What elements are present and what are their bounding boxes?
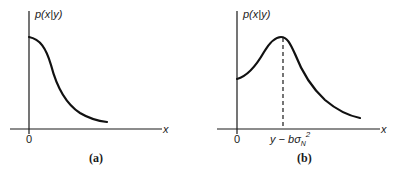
density-curve: [29, 37, 107, 122]
x-axis-label: x: [162, 123, 169, 135]
x-axis-label: x: [380, 123, 387, 135]
peak-label-sub: N: [301, 140, 307, 147]
density-curve: [237, 37, 360, 118]
peak-label-base: y − bσ: [269, 133, 301, 145]
figure: p(x|y) x 0 (a) p(x|y) x 0 y − bσN2 (b): [0, 0, 394, 172]
origin-label: 0: [234, 133, 240, 145]
y-axis-label: p(x|y): [242, 8, 271, 20]
panel-a: p(x|y) x 0 (a): [10, 8, 169, 165]
peak-label-sup: 2: [305, 130, 311, 139]
origin-label: 0: [26, 133, 32, 145]
panel-caption: (a): [89, 151, 103, 165]
peak-label: y − bσN2: [269, 130, 311, 147]
y-axis-label: p(x|y): [34, 8, 63, 20]
panel-caption: (b): [297, 151, 312, 165]
panel-b: p(x|y) x 0 y − bσN2 (b): [217, 8, 387, 165]
